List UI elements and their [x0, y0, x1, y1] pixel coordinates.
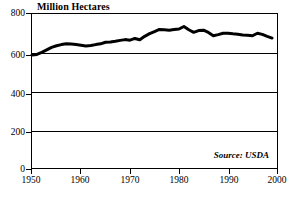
ytick-label-400: 400 [0, 89, 25, 99]
chart-figure: Million Hectares Source: USDA 800 600 40… [0, 0, 293, 197]
ytick-label-0: 0 [0, 164, 25, 174]
xtick-label-1950: 1950 [11, 175, 51, 185]
xtick-mark-1960 [80, 169, 81, 174]
xtick-label-1980: 1980 [159, 175, 199, 185]
ytick-label-800: 800 [0, 8, 25, 18]
xtick-mark-1970 [130, 169, 131, 174]
plot-area: Source: USDA [31, 13, 278, 169]
xtick-label-1970: 1970 [110, 175, 150, 185]
data-series-line [32, 14, 277, 168]
ytick-mark-0 [26, 169, 31, 170]
source-annotation: Source: USDA [214, 150, 269, 160]
xtick-mark-1950 [31, 169, 32, 174]
ytick-label-600: 600 [0, 50, 25, 60]
xtick-label-1990: 1990 [209, 175, 249, 185]
xtick-mark-2000 [277, 169, 278, 174]
xtick-label-1960: 1960 [60, 175, 100, 185]
xtick-mark-1980 [179, 169, 180, 174]
xtick-mark-1990 [229, 169, 230, 174]
chart-title: Million Hectares [37, 1, 110, 12]
ytick-label-200: 200 [0, 127, 25, 137]
xtick-label-2000: 2000 [257, 175, 293, 185]
